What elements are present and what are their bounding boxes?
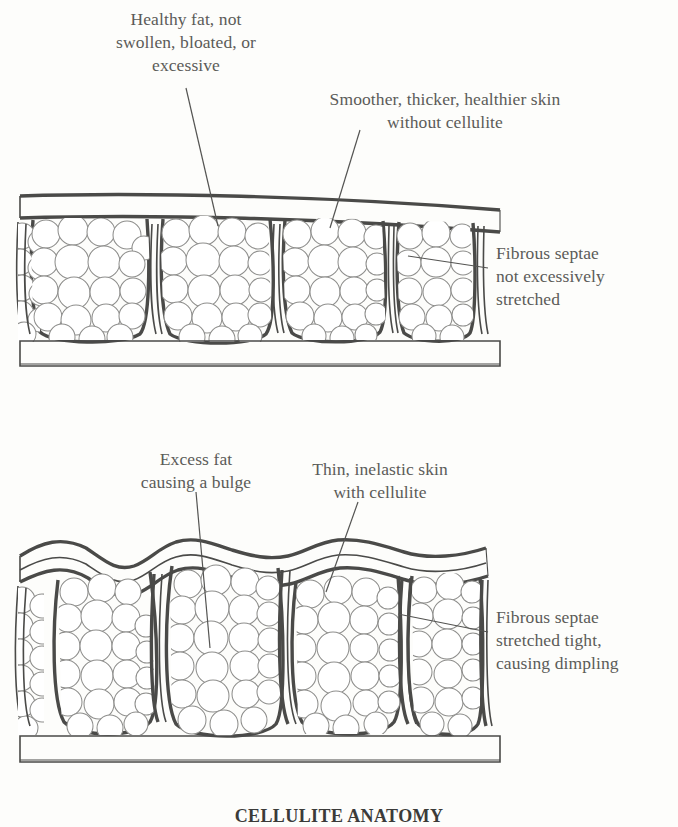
cellulite-fat-cells-2 [166,565,282,738]
healthy-fat-cells-4 [395,219,475,349]
healthy-fat-cells-3 [281,217,388,350]
healthy-septa-2 [273,224,278,333]
cellulite-muscle-layer [20,736,500,762]
label-fibrous-septae-not-stretched: Fibrous septae not excessively stretched [496,242,676,310]
leader-smooth-skin [330,130,360,228]
healthy-fat-cells-2 [159,215,273,352]
label-fibrous-septae-stretched: Fibrous septae stretched tight, causing … [496,606,676,674]
healthy-muscle-layer [20,341,500,366]
cellulite-fat-cells-4 [406,572,484,738]
cellulite-fat-cells-0 [7,587,54,740]
leader-healthy-fat [186,88,218,226]
figure-stage: .ln{fill:none;stroke:#4a4a48;} .thin{str… [0,0,678,827]
cellulite-fat-cells-1 [52,574,158,741]
healthy-septa-4 [477,226,482,334]
label-excess-fat-bulge: Excess fat causing a bulge [106,448,286,494]
healthy-fat-cells-1 [30,215,156,352]
cellulite-fat-cells-3 [288,576,401,741]
figure-caption: CELLULITE ANATOMY [0,806,678,827]
healthy-epidermis-top [20,195,500,210]
healthy-septa-3 [388,226,393,333]
cellulite-epidermis-top [20,540,486,568]
label-healthy-fat: Healthy fat, not swollen, bloated, or ex… [86,8,286,76]
healthy-septa-1 [151,224,156,334]
label-thin-inelastic-skin: Thin, inelastic skin with cellulite [280,458,480,504]
label-smoother-skin: Smoother, thicker, healthier skin withou… [300,88,590,134]
